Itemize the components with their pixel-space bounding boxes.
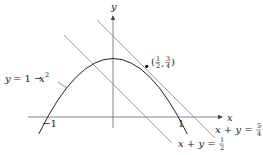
svg-text:5: 5 [257,122,261,130]
svg-text:,: , [161,57,164,68]
curve-label-leader [58,82,67,88]
svg-text:x + y =: x + y = [215,124,253,135]
point-label: ( 1 2 , 3 4 ) [151,55,175,70]
tick-label-one: 1 [178,118,184,129]
svg-text:1: 1 [220,136,224,144]
svg-text:4: 4 [257,130,261,138]
svg-text:y: y [4,73,11,84]
tangent-line-x-plus-y-five-quarters [97,20,215,138]
curve-label: y = 1 − x 2 [4,71,49,84]
svg-text:4: 4 [166,62,170,70]
x-axis-label: x [227,112,233,123]
svg-text:x + y =: x + y = [178,138,216,149]
tick-label-neg-one: −1 [42,118,57,129]
svg-text:2: 2 [220,144,224,152]
svg-text:2: 2 [45,71,49,79]
y-axis-label: y [110,1,117,12]
tangent-point [145,65,148,68]
svg-text:): ) [171,56,175,67]
svg-text:(: ( [151,56,155,67]
diagram-canvas: y x −1 1 y = 1 − x 2 ( 1 2 , 3 4 ) x + y… [0,0,263,155]
svg-text:2: 2 [156,62,160,70]
half-line-label: x + y = 1 2 [178,136,224,152]
line-x-plus-y-half [64,35,172,143]
